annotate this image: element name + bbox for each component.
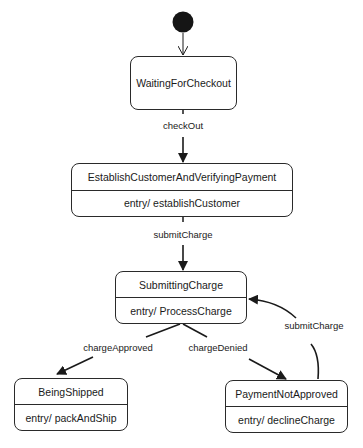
label-chargeapproved: chargeApproved — [83, 342, 153, 353]
state-entry-action: entry/ ProcessCharge — [116, 297, 246, 323]
edge-resubmit — [311, 344, 318, 379]
edge-chargedenied — [249, 359, 286, 379]
state-entry-action: entry/ packAndShip — [15, 404, 127, 430]
label-checkout: checkOut — [163, 120, 203, 131]
state-name: BeingShipped — [15, 379, 127, 404]
label-resubmitcharge: submitCharge — [284, 320, 343, 331]
label-submitcharge: submitCharge — [153, 229, 212, 240]
initial-state-dot — [173, 12, 194, 33]
state-establish-customer[interactable]: EstablishCustomerAndVerifyingPayment ent… — [71, 163, 293, 217]
state-name: SubmittingCharge — [116, 272, 246, 297]
state-name: WaitingForCheckout — [131, 57, 236, 109]
state-payment-not-approved[interactable]: PaymentNotApproved entry/ declineCharge — [225, 380, 348, 433]
state-being-shipped[interactable]: BeingShipped entry/ packAndShip — [14, 378, 128, 431]
state-entry-action: entry/ declineCharge — [226, 406, 347, 432]
state-name: EstablishCustomerAndVerifyingPayment — [72, 164, 292, 190]
state-name: PaymentNotApproved — [226, 381, 347, 406]
label-chargedenied: chargeDenied — [188, 342, 247, 353]
state-submitting-charge[interactable]: SubmittingCharge entry/ ProcessCharge — [115, 271, 247, 324]
state-waiting-for-checkout[interactable]: WaitingForCheckout — [130, 56, 237, 110]
edge-chargeapproved — [57, 357, 93, 374]
state-entry-action: entry/ establishCustomer — [72, 190, 292, 217]
